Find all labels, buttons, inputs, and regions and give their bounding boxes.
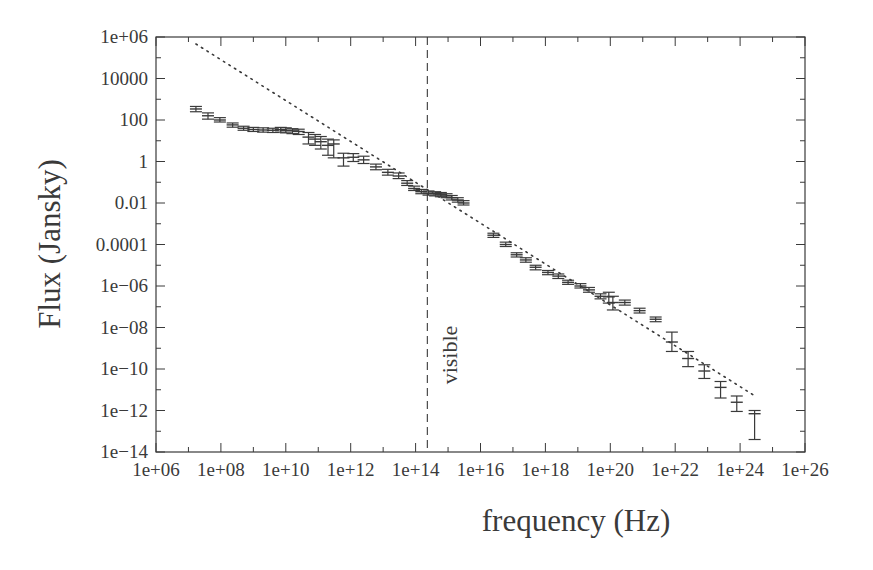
y-axis-title: Flux (Jansky) [32,159,67,329]
data-point [542,270,554,274]
x-tick-label: 1e+10 [262,459,310,480]
data-point [338,153,350,166]
data-point [358,156,370,163]
data-point [190,106,202,111]
y-tick-label: 1e−06 [100,275,148,296]
data-point [458,201,470,205]
y-tick-label: 1 [139,151,149,172]
y-tick-label: 10000 [101,68,149,89]
data-point [682,351,694,366]
x-axis: 1e+061e+081e+101e+121e+141e+161e+181e+20… [132,37,829,480]
y-tick-label: 100 [120,109,149,130]
data-point [530,265,542,270]
data-point [227,123,239,127]
data-point [214,118,226,122]
x-tick-label: 1e+08 [197,459,245,480]
y-tick-label: 0.0001 [96,234,148,255]
data-point [202,113,214,119]
fit-line [196,44,757,397]
x-tick-label: 1e+22 [651,459,699,480]
y-tick-label: 1e−12 [100,400,148,421]
x-tick-label: 1e+18 [522,459,570,480]
plot-area [156,37,805,452]
y-tick-label: 0.01 [115,192,148,213]
data-point [552,274,564,279]
x-tick-label: 1e+24 [716,459,764,480]
x-tick-label: 1e+12 [327,459,375,480]
data-point [382,169,394,175]
data-point [500,242,512,246]
data-point [666,332,678,351]
x-axis-title: frequency (Hz) [482,503,670,538]
data-point [393,173,405,179]
data-point [634,308,646,313]
data-point [370,164,382,170]
data-point [520,258,532,262]
y-tick-label: 1e+06 [100,26,148,47]
data-point [619,300,631,305]
y-axis: 1e−141e−121e−101e−081e−060.00010.0111001… [96,26,805,462]
data-series [190,106,761,439]
y-tick-label: 1e−10 [100,358,148,379]
data-point [715,381,727,398]
data-point [731,396,743,411]
x-tick-label: 1e+26 [781,459,829,480]
data-point [511,253,523,257]
data-point [347,154,359,162]
data-point [315,137,327,149]
y-tick-label: 1e−08 [100,317,148,338]
data-point [562,280,574,284]
x-tick-label: 1e+20 [586,459,634,480]
x-tick-label: 1e+06 [132,459,180,480]
chart: 1e+061e+081e+101e+121e+141e+161e+181e+20… [0,0,873,570]
data-point [401,181,413,186]
data-point [650,317,662,322]
x-tick-label: 1e+14 [392,459,440,480]
visible-band-label: visible [437,326,462,385]
x-tick-label: 1e+16 [457,459,505,480]
data-point [487,233,499,237]
plot-frame [156,37,805,452]
data-point [749,411,761,440]
y-tick-label: 1e−14 [100,441,148,462]
